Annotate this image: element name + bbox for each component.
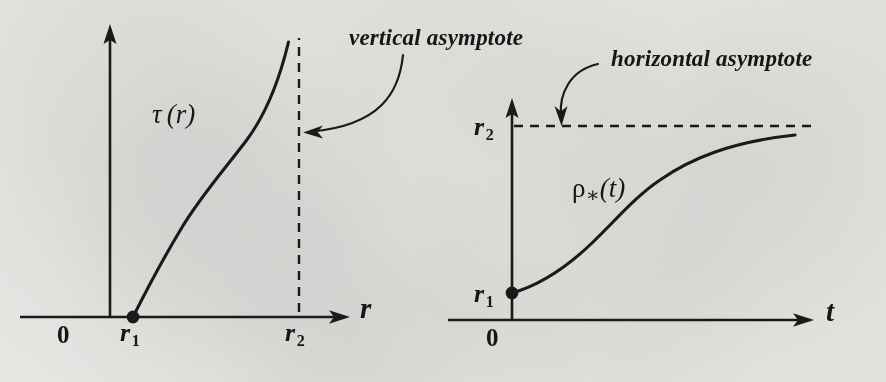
- right-tick-r2-subscript: 2: [486, 126, 494, 143]
- rho-function-label: ρ∗(t): [572, 175, 625, 206]
- vertical-asymptote-pointer-arrowhead: [303, 126, 323, 139]
- right-tick-r1-subscript: 1: [486, 293, 494, 310]
- vertical-asymptote-label: vertical asymptote: [349, 26, 523, 49]
- left-tick-r2-base: r: [285, 318, 295, 347]
- tau-function-label: τ(r): [152, 101, 195, 128]
- right-tick-r2-label: r2: [474, 114, 494, 143]
- right-origin-label: 0: [486, 325, 499, 350]
- rho-curve: [512, 135, 795, 293]
- left-tick-r1-label: r1: [120, 320, 140, 349]
- right-tick-r2-base: r: [474, 112, 484, 141]
- vertical-asymptote-pointer-line: [313, 55, 403, 132]
- tau-symbol: τ: [152, 99, 162, 129]
- right-plot-group: [448, 64, 818, 327]
- right-tick-r1-label: r1: [474, 281, 494, 310]
- left-tick-r1-base: r: [120, 318, 130, 347]
- left-tick-r2-label: r2: [285, 320, 305, 349]
- right-start-point-marker: [506, 287, 519, 300]
- rho-argument: (t): [600, 173, 625, 203]
- tau-argument: (r): [167, 99, 196, 129]
- tau-curve: [133, 42, 289, 317]
- left-plot-group: [20, 24, 403, 324]
- left-tick-r2-subscript: 2: [297, 332, 305, 349]
- asymptote-figure: vertical asymptote τ(r) 0 r1 r2 r horizo…: [0, 0, 886, 382]
- left-x-axis-label: r: [360, 294, 371, 323]
- right-tick-r1-base: r: [474, 279, 484, 308]
- right-x-axis-label: t: [826, 297, 834, 326]
- rho-symbol: ρ: [572, 173, 585, 203]
- left-tick-r1-subscript: 1: [132, 332, 140, 349]
- rho-star-subscript: ∗: [585, 183, 599, 207]
- horizontal-asymptote-label: horizontal asymptote: [611, 47, 812, 70]
- left-origin-label: 0: [57, 322, 70, 347]
